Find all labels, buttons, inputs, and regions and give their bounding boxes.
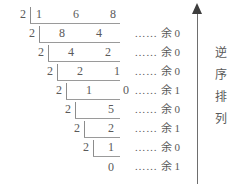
division-bracket-tick: [93, 140, 94, 157]
row-dividend: 8 4: [45, 24, 114, 43]
row-divisor: 2: [57, 100, 71, 119]
ellipsis-dots: ……: [135, 160, 158, 172]
division-row: 2 5 ……余1: [0, 100, 242, 119]
row-dividend: 2 1: [63, 62, 114, 81]
remainder-value: 1: [175, 160, 181, 172]
row-dividend: 4 2: [54, 43, 114, 62]
row-remainder: ……余1: [118, 138, 180, 193]
row-divisor: 2: [66, 119, 80, 138]
row-dividend: 5: [81, 100, 114, 119]
row-dividend: 1: [99, 138, 114, 157]
remainder-word: 余: [161, 160, 172, 173]
row-dividend: 2: [90, 119, 114, 138]
row-dividend: 1 6 8: [36, 5, 114, 24]
division-bracket-tick: [57, 64, 58, 81]
row-divisor: 2: [48, 81, 62, 100]
reverse-order-char: 排: [212, 86, 230, 108]
division-bracket-tick: [48, 45, 49, 62]
row-divisor: 2: [30, 43, 44, 62]
reverse-order-label: 逆 序 排 列: [212, 42, 230, 130]
reverse-order-char: 逆: [212, 42, 230, 64]
division-bracket-tick: [39, 26, 40, 43]
row-divisor: 2: [39, 62, 53, 81]
row-divisor: 2: [12, 5, 26, 24]
division-bracket-tick: [84, 121, 85, 138]
final-quotient: 0: [99, 158, 114, 177]
division-bracket-tick: [66, 83, 67, 100]
row-divisor: 2: [21, 24, 35, 43]
division-row: 2 1 ……余1: [0, 138, 242, 157]
reverse-order-char: 序: [212, 64, 230, 86]
division-row: 2 1 0 ……余0: [0, 81, 242, 100]
division-row: 2 4 2 ……余0: [0, 43, 242, 62]
division-row: 2 8 4 ……余0: [0, 24, 242, 43]
division-row: 2 1 6 8 ……余0: [0, 5, 242, 24]
division-row: 2 2 ……余0: [0, 119, 242, 138]
row-divisor: 2: [75, 138, 89, 157]
division-row: 2 2 1 ……余1: [0, 62, 242, 81]
division-bracket-tick: [30, 7, 31, 24]
up-arrow-shaft: [197, 12, 198, 184]
division-diagram: 2 1 6 8 ……余0 2 8 4 ……余0 2 4 2 ……余0 2 2 1…: [0, 0, 242, 193]
up-arrow-icon: [192, 3, 202, 14]
division-rule: [93, 156, 120, 157]
division-bracket-tick: [75, 102, 76, 119]
reverse-order-char: 列: [212, 108, 230, 130]
row-dividend: 1 0: [72, 81, 114, 100]
